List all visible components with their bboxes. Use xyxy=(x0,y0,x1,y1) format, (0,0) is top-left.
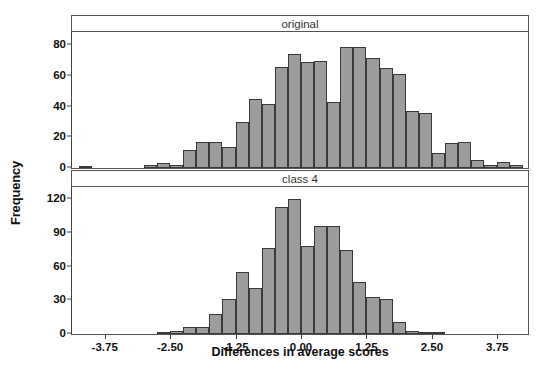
histogram-bar xyxy=(196,142,209,168)
x-axis-tick-mark xyxy=(497,334,498,339)
x-axis-tick-mark xyxy=(170,334,171,339)
bars-container xyxy=(72,32,528,168)
bars-container xyxy=(72,187,528,334)
histogram-bar xyxy=(196,327,209,334)
histogram-bar xyxy=(419,113,432,168)
y-axis-spine xyxy=(71,32,72,169)
x-axis-label: Differences in average scores xyxy=(70,345,530,359)
histogram-bar xyxy=(79,166,92,168)
histogram-bar xyxy=(249,288,262,334)
panel-strip-label: class 4 xyxy=(71,170,529,187)
x-axis-tick-mark xyxy=(236,334,237,339)
histogram-bar xyxy=(366,58,379,168)
histogram-bar xyxy=(340,47,353,168)
plot-area: 020406080 xyxy=(71,32,529,169)
histogram-bar xyxy=(314,61,327,168)
histogram-bar xyxy=(406,331,419,334)
histogram-bar xyxy=(380,68,393,168)
histogram-figure: Frequency original020406080 class 403060… xyxy=(0,0,560,372)
histogram-bar xyxy=(497,162,510,168)
histogram-bar xyxy=(380,299,393,334)
histogram-bar xyxy=(275,207,288,334)
histogram-bar xyxy=(327,102,340,168)
histogram-bar xyxy=(209,314,222,334)
histogram-bar xyxy=(432,153,445,168)
y-axis-label: Frequency xyxy=(0,0,30,372)
x-axis-tick-mark xyxy=(301,334,302,339)
histogram-bar xyxy=(236,122,249,168)
panel-strip-label: original xyxy=(71,15,529,32)
histogram-bar xyxy=(353,282,366,334)
histogram-bar xyxy=(340,250,353,334)
histogram-bar xyxy=(249,99,262,168)
histogram-bar xyxy=(157,163,170,168)
histogram-bar xyxy=(170,331,183,334)
histogram-bar xyxy=(327,226,340,334)
histogram-bar xyxy=(510,165,523,168)
histogram-bar xyxy=(262,248,275,334)
histogram-bar xyxy=(222,147,235,168)
histogram-bar xyxy=(183,150,196,168)
histogram-bar xyxy=(275,67,288,168)
histogram-bar xyxy=(157,332,170,334)
histogram-bar xyxy=(419,332,432,334)
x-axis-tick-mark xyxy=(432,334,433,339)
histogram-bar xyxy=(170,165,183,168)
histogram-bar xyxy=(301,246,314,334)
panel-class-4: class 40306090120-3.75-2.50-1.250.001.25… xyxy=(71,170,529,335)
histogram-bar xyxy=(144,165,157,168)
x-axis-tick-mark xyxy=(105,334,106,339)
histogram-bar xyxy=(314,226,327,334)
histogram-bar xyxy=(288,199,301,334)
histogram-bar xyxy=(288,54,301,168)
histogram-bar xyxy=(458,142,471,168)
histogram-bar xyxy=(471,160,484,168)
histogram-bar xyxy=(393,74,406,168)
histogram-bar xyxy=(432,332,445,334)
histogram-bar xyxy=(445,143,458,168)
x-axis-tick-mark xyxy=(366,334,367,339)
histogram-bar xyxy=(484,165,497,168)
histogram-bar xyxy=(209,142,222,168)
y-axis-spine xyxy=(71,187,72,335)
histogram-bar xyxy=(353,47,366,168)
y-axis-label-text: Frequency xyxy=(8,161,23,225)
histogram-bar xyxy=(393,322,406,334)
histogram-bar xyxy=(183,327,196,334)
histogram-bar xyxy=(262,104,275,168)
histogram-bar xyxy=(406,111,419,168)
histogram-bar xyxy=(366,297,379,334)
histogram-bar xyxy=(236,272,249,334)
plot-area: 0306090120-3.75-2.50-1.250.001.252.503.7… xyxy=(71,187,529,335)
histogram-bar xyxy=(222,299,235,334)
panel-original: original020406080 xyxy=(71,15,529,169)
histogram-bar xyxy=(301,62,314,168)
